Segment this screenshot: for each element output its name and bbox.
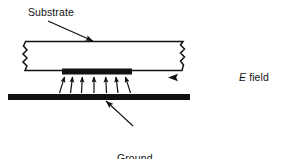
ground-plane-label-line1: Ground: [117, 152, 153, 159]
field-arrow-7: [126, 77, 131, 93]
ground-plane-label: Ground plane: [117, 128, 153, 159]
ground-plane-bar: [8, 94, 190, 100]
conductor-strip: [62, 69, 132, 75]
substrate-block: [23, 42, 185, 71]
field-arrow-6: [116, 77, 118, 93]
field-arrow-1: [60, 77, 65, 93]
field-arrow-group: [60, 77, 131, 93]
substrate-callout-leader: [48, 21, 93, 41]
field-arrow-5: [106, 77, 107, 93]
efield-word: field: [246, 71, 269, 83]
figure-canvas: Substrate E field Ground plane: [0, 0, 283, 159]
substrate-label: Substrate: [28, 6, 74, 18]
field-arrow-2: [71, 77, 73, 93]
field-arrow-3: [82, 77, 83, 93]
ground-callout-leader: [106, 101, 133, 126]
efield-label: E field: [239, 71, 269, 83]
